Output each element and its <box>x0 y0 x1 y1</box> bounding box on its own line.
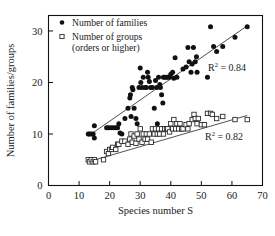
y-tick-label: 10 <box>32 129 43 140</box>
data-point-family <box>92 123 97 128</box>
scatter-chart-figure: 0102030405060700102030 Number of familie… <box>0 0 275 236</box>
data-point-family <box>92 136 97 141</box>
legend-continuation-label: (orders or higher) <box>72 42 140 54</box>
data-point-family <box>135 121 140 126</box>
data-point-group <box>202 123 206 127</box>
data-point-family <box>205 75 210 80</box>
data-point-family <box>195 70 200 75</box>
data-point-group <box>214 116 218 120</box>
data-point-group <box>178 121 182 125</box>
data-point-group <box>210 112 214 116</box>
data-point-family <box>174 75 179 80</box>
data-point-group <box>126 142 130 146</box>
data-point-family <box>211 44 216 49</box>
r-squared-annotation-1: R2 = 0.82 <box>205 130 243 142</box>
data-point-family <box>122 116 127 121</box>
legend-label-0: Number of families <box>72 17 147 28</box>
data-point-family <box>129 114 134 119</box>
data-point-family <box>185 45 190 50</box>
x-tick-label: 0 <box>46 190 51 201</box>
data-point-family <box>145 70 150 75</box>
y-tick-label: 0 <box>37 180 42 191</box>
x-tick-label: 20 <box>104 190 115 201</box>
y-tick-label: 30 <box>32 26 43 37</box>
legend-group: Number of familiesNumber of groups(order… <box>60 17 148 55</box>
data-point-group <box>233 117 237 121</box>
legend-label-1: Number of groups <box>72 31 143 42</box>
data-point-family <box>128 92 133 97</box>
data-point-group <box>101 158 105 162</box>
data-point-group <box>196 116 200 120</box>
data-point-group <box>161 132 165 136</box>
x-tick-label: 10 <box>74 190 85 201</box>
data-point-group <box>147 132 151 136</box>
ticks-group <box>49 31 232 186</box>
data-point-family <box>147 79 152 84</box>
data-point-family <box>158 85 163 90</box>
y-tick-label: 20 <box>32 77 43 88</box>
data-point-group <box>186 127 190 131</box>
data-point-family <box>150 85 155 90</box>
data-point-group <box>138 127 142 131</box>
data-point-family <box>173 55 178 60</box>
data-point-family <box>152 106 157 111</box>
data-point-family <box>133 116 138 121</box>
data-point-family <box>220 44 225 49</box>
legend-marker-open-square-icon <box>60 34 64 38</box>
data-point-family <box>184 65 189 70</box>
data-point-family <box>191 45 196 50</box>
data-point-family <box>125 106 130 111</box>
data-point-family <box>141 75 146 80</box>
legend-marker-filled-circle-icon <box>60 20 65 25</box>
data-point-family <box>160 101 165 106</box>
data-point-family <box>232 35 237 40</box>
data-point-family <box>130 87 135 92</box>
data-point-family <box>138 80 143 85</box>
data-point-group <box>149 140 153 144</box>
data-point-family <box>132 106 137 111</box>
data-point-group <box>93 160 97 164</box>
data-point-family <box>194 54 199 59</box>
x-axis-title: Species number S <box>118 205 193 216</box>
data-point-family <box>188 70 193 75</box>
data-point-family <box>138 66 143 71</box>
x-tick-label: 60 <box>227 190 238 201</box>
data-point-group <box>114 147 118 151</box>
data-point-family <box>170 70 175 75</box>
data-point-group <box>245 117 249 121</box>
x-tick-label: 50 <box>196 190 207 201</box>
data-point-group <box>135 132 139 136</box>
data-point-family <box>116 121 121 126</box>
annotations-group: R2 = 0.84R2 = 0.82 <box>205 61 246 142</box>
tick-labels-group: 0102030405060700102030 <box>32 26 268 201</box>
x-tick-label: 30 <box>135 190 146 201</box>
chart-canvas: 0102030405060700102030 Number of familie… <box>0 0 275 236</box>
y-axis-title: Number of families/groups <box>5 44 16 158</box>
x-tick-label: 40 <box>166 190 177 201</box>
data-point-family <box>208 24 213 29</box>
data-point-family <box>214 49 219 54</box>
r-squared-annotation-0: R2 = 0.84 <box>208 61 246 73</box>
data-point-group <box>195 121 199 125</box>
data-point-family <box>144 85 149 90</box>
data-point-family <box>245 24 250 29</box>
data-point-family <box>156 75 161 80</box>
x-tick-label: 70 <box>257 190 268 201</box>
data-point-family <box>155 121 160 126</box>
data-point-family <box>193 59 198 64</box>
data-point-group <box>221 114 225 118</box>
data-point-family <box>119 131 124 136</box>
data-point-family <box>159 92 164 97</box>
